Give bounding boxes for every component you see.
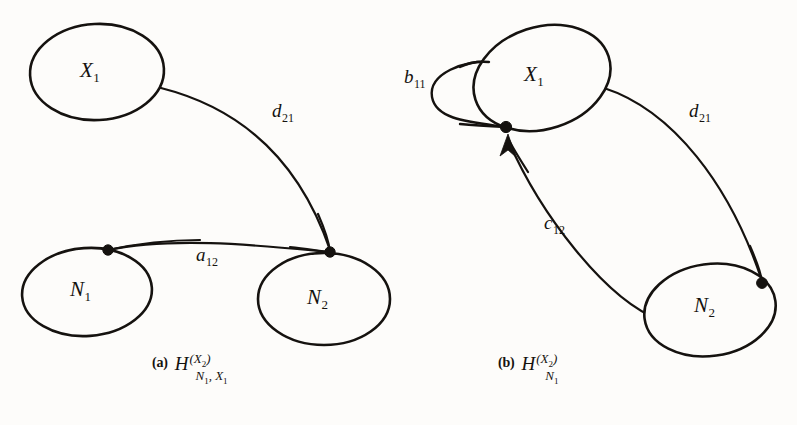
edge-d21-panel-b xyxy=(604,88,762,281)
caption-body-b: H (X2) N1 xyxy=(522,352,559,386)
edge-label-a12-panel-a: a12 xyxy=(196,244,218,270)
caption-symbol-a: H xyxy=(175,352,189,373)
vertex-dot-N2-panel-a xyxy=(325,247,335,257)
vertex-dot-X1-panel-b xyxy=(500,121,511,132)
caption-superscript-b: (X2) xyxy=(536,352,558,369)
node-label-N1-panel-a: N1 xyxy=(70,277,91,305)
caption-subscript-a: N1, X1 xyxy=(189,369,227,386)
edge-label-d21-panel-a: d21 xyxy=(272,100,294,126)
edge-label-d21-panel-b: d21 xyxy=(689,100,711,126)
edge-label-b11-panel-b: b11 xyxy=(404,66,426,92)
caption-symbol-b: H xyxy=(522,352,536,373)
figure-root: X1 N1 N2 d21 a12 X1 N2 b11 d21 c12 (a) H… xyxy=(0,0,797,425)
node-label-X1-panel-b: X1 xyxy=(524,62,544,90)
edge-d21-panel-a xyxy=(161,88,330,250)
panel-b-graphics xyxy=(432,8,782,365)
vertex-dot-N2-panel-b xyxy=(757,278,768,289)
node-label-N2-panel-a: N2 xyxy=(307,285,328,313)
graph-diagram xyxy=(0,0,797,425)
caption-tag-a: (a) xyxy=(152,352,168,371)
caption-subscript-b: N1 xyxy=(536,369,558,386)
edge-label-c12-panel-b: c12 xyxy=(544,212,565,238)
node-label-N2-panel-b: N2 xyxy=(694,293,715,321)
edge-c12-panel-b xyxy=(508,140,660,320)
node-label-X1-panel-a: X1 xyxy=(80,58,100,86)
caption-panel-a: (a) H (X2) N1, X1 xyxy=(152,352,228,386)
vertex-dot-N1-panel-a xyxy=(103,245,113,255)
caption-body-a: H (X2) N1, X1 xyxy=(175,352,228,386)
caption-superscript-a: (X2) xyxy=(189,352,227,369)
caption-panel-b: (b) H (X2) N1 xyxy=(498,352,558,386)
arrowhead-c12-icon xyxy=(500,134,516,157)
caption-tag-b: (b) xyxy=(498,352,515,371)
